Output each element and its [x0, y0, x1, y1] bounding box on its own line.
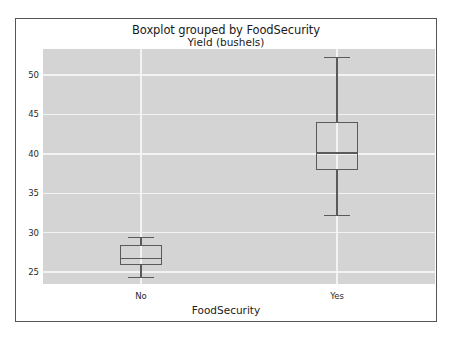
- y-tick-label: 40: [15, 149, 39, 159]
- cap-lower: [324, 215, 350, 216]
- gridline-y-30: [43, 232, 435, 234]
- cap-lower: [128, 277, 154, 278]
- gridline-y-50: [43, 74, 435, 76]
- figure-frame: Boxplot grouped by FoodSecurity Yield (b…: [15, 18, 437, 322]
- whisker-lower: [336, 170, 337, 215]
- box-iqr: [120, 245, 162, 265]
- y-tick-label: 50: [15, 70, 39, 80]
- plot-area: [43, 49, 435, 284]
- x-tick-label-no: No: [135, 291, 147, 301]
- whisker-upper: [140, 237, 141, 245]
- y-axis-tick-labels: 253035404550: [16, 49, 39, 284]
- x-axis-title: FoodSecurity: [16, 304, 436, 316]
- gridline-y-25: [43, 271, 435, 273]
- chart-title: Boxplot grouped by FoodSecurity: [16, 23, 436, 37]
- y-tick-label: 45: [15, 109, 39, 119]
- x-tick-label-yes: Yes: [330, 291, 344, 301]
- y-tick-label: 30: [15, 228, 39, 238]
- median-line: [316, 152, 358, 153]
- y-tick-label: 35: [15, 188, 39, 198]
- gridline-y-35: [43, 193, 435, 195]
- whisker-lower: [140, 265, 141, 278]
- box-iqr: [316, 122, 358, 171]
- cap-upper: [324, 57, 350, 58]
- median-line: [120, 258, 162, 259]
- whisker-upper: [336, 58, 337, 122]
- cap-upper: [128, 237, 154, 238]
- y-tick-label: 25: [15, 267, 39, 277]
- chart-subtitle: Yield (bushels): [16, 36, 436, 48]
- gridline-y-40: [43, 153, 435, 155]
- gridline-y-45: [43, 114, 435, 116]
